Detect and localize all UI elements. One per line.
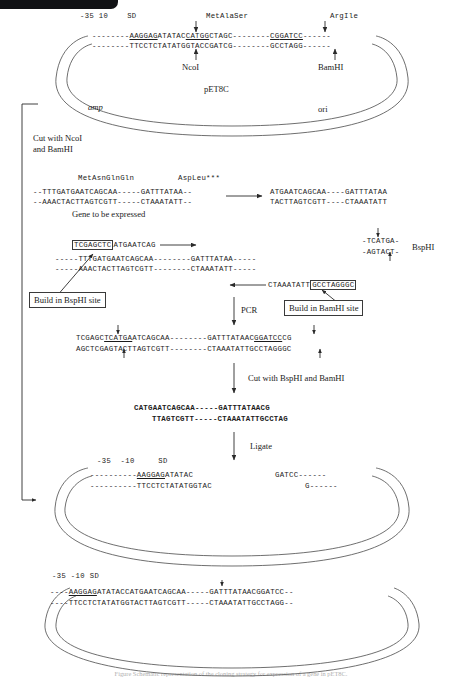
top-plasmid-bottom-strand: --------TTCCTCTATATGGTACCGATCG--------GC… xyxy=(92,42,331,51)
pcrp-e: CG xyxy=(282,334,291,342)
gene-bottom-strand: --AAACTACTTAGTCGTT-----CTAAATATT-- xyxy=(33,198,192,207)
pcr-product-top: TCGAGCTCATGAATCAGCAA--------GATTTATAACGG… xyxy=(76,334,292,343)
mid-plasmid-ruler: -35 -10 SD xyxy=(97,457,168,465)
gene-excised-bottom: TACTTAGTCGTT----CTAAATATT xyxy=(270,198,387,207)
figure-caption: Figure Schematic representation of the c… xyxy=(0,670,462,677)
midp-rest: ATATAC xyxy=(165,471,193,479)
seg-dash-h: ------ xyxy=(303,32,331,40)
enzyme-label-bamhi: BamHI xyxy=(318,62,343,72)
seg-bamhi: GATCC xyxy=(279,32,302,40)
bot-seg-b: CGATCG-------- xyxy=(204,42,270,50)
top-plasmid-ruler: -35 10 SD xyxy=(80,12,137,20)
step-cut-top-line1: Cut with NcoI xyxy=(33,133,82,143)
marker-ori: ori xyxy=(318,104,328,114)
seg-rest: CTAGC-------- xyxy=(209,32,270,40)
gene-caption: Gene to be expressed xyxy=(72,209,145,219)
reverse-primer: CTAAATATTGCCTAGGGC xyxy=(268,281,356,290)
gene-top-strand: --TTTGATGAATCAGCAA-----GATTTATAA-- xyxy=(33,188,192,197)
forward-primer-anneal: ATGAATCAG xyxy=(113,241,155,249)
step-cut-top-line2: and BamHI xyxy=(33,144,73,154)
pcrp-c: ATCAGCAA--------GATTTATAAC xyxy=(132,334,254,342)
gene-aa-right: AspLeu*** xyxy=(178,174,220,182)
botp-sd: AAGGAG xyxy=(69,588,97,596)
top-plasmid-aa-left: MetAlaSer xyxy=(206,12,248,20)
enzyme-label-ncoi: NcoI xyxy=(182,62,199,72)
gene-aa-left: MetAsnGlnGln xyxy=(78,174,134,182)
bottom-plasmid-bottom-strand: ----TTCCTCTATATGGTACTTAGTCGTT-----CTAAAT… xyxy=(50,599,294,608)
cut-bsph-bamh-label: Cut with BspHI and BamHI xyxy=(248,373,344,383)
marker-amp: amp xyxy=(88,102,103,112)
top-plasmid-aa-right: ArgIle xyxy=(330,12,358,20)
botp-bdash: ---- xyxy=(50,599,69,607)
seg-dash-a: -------- xyxy=(92,32,129,40)
botp-dash: ---- xyxy=(50,588,69,596)
seg-spacer: ATATAC xyxy=(158,32,186,40)
botp-binsert: TTAGTCGTT-----CTAAATATTGCCTAG xyxy=(144,599,280,607)
seg-sd: AAGGAG xyxy=(129,32,157,40)
botp-insert: CATGAATCAGCAA-----GATTTATAACGG xyxy=(125,588,266,596)
mid-plasmid-bottom-strand: ----------TTCCTCTATATGGTAC xyxy=(90,482,212,491)
midp-dash: ---------- xyxy=(90,471,137,479)
callout-build-bsph: Build in BspHI site xyxy=(29,292,106,308)
mid-plasmid-top-right: GATCC------ xyxy=(275,471,327,480)
bsph-site-bottom: -AGTACT- xyxy=(362,248,399,257)
mid-plasmid-bottom-right: G------ xyxy=(305,482,338,491)
midp-sd: AAGGAG xyxy=(137,471,165,479)
plasmid-name-pet8c: pET8C xyxy=(204,84,229,94)
botp-tail: ATCC-- xyxy=(266,588,294,596)
reverse-primer-anneal: CTAAATATT xyxy=(268,281,310,289)
pcrp-bsph: TCATGA xyxy=(104,334,132,342)
bottom-plasmid-top-strand: ----AAGGAGATATACCATGAATCAGCAA-----GATTTA… xyxy=(50,588,294,597)
bsph-enzyme-label: BspHI xyxy=(412,242,434,252)
cut-fragment-top: CATGAATCAGCAA-----GATTTATAACG xyxy=(134,404,270,413)
bottom-plasmid-ruler: -35 -10 SD xyxy=(52,572,99,580)
bot-seg-d: ------ xyxy=(303,42,331,50)
bot-seg-c: GCCTAGG xyxy=(270,42,303,50)
pcr-template-top: -----TTTGATGAATCAGCAA--------GATTTATAA--… xyxy=(55,255,256,264)
cut-fragment-bottom: TTAGTCGTT-----CTAAATATTGCCTAG xyxy=(152,415,288,424)
reverse-primer-boxed-site: GCCTAGGGC xyxy=(310,280,356,290)
ligate-step-label: Ligate xyxy=(250,441,272,451)
pcrp-bamh: GGATCC xyxy=(254,334,282,342)
pcrp-a: TCGAGC xyxy=(76,334,104,342)
pcr-product-bottom: AGCTCGAGTACTTAGTCGTT--------CTAAATATTGCC… xyxy=(76,345,292,354)
bsph-site-top: -TCATGA- xyxy=(362,237,399,246)
seg-ncoi: CATGG xyxy=(186,32,209,40)
callout-build-bamh: Build in BamHI site xyxy=(284,300,363,316)
botp-spacer: ATATAC xyxy=(97,588,125,596)
gene-excised-top: ATGAATCAGCAA----GATTTATAA xyxy=(270,188,387,197)
pcr-step-label: PCR xyxy=(241,305,257,315)
botp-bspacer: TTCCTCTATATGGTAC xyxy=(69,599,144,607)
botp-btail: G-- xyxy=(280,599,294,607)
forward-primer: TCGAGCTCATGAATCAG xyxy=(72,241,156,250)
pcr-template-bottom: -----AAACTACTTAGTCGTT--------CTAAATATT--… xyxy=(55,265,256,274)
mid-plasmid-top-strand: ----------AAGGAGATATAC xyxy=(90,471,193,480)
figure-canvas: -35 10 SD MetAlaSer ArgIle --------AAGGA… xyxy=(0,0,462,680)
top-plasmid-top-strand: --------AAGGAGATATACCATGGCTAGC--------CG… xyxy=(92,32,331,41)
forward-primer-boxed-site: TCGAGCTC xyxy=(72,240,113,250)
bot-seg-a: --------TTCCTCTATATGGTAC xyxy=(92,42,204,50)
